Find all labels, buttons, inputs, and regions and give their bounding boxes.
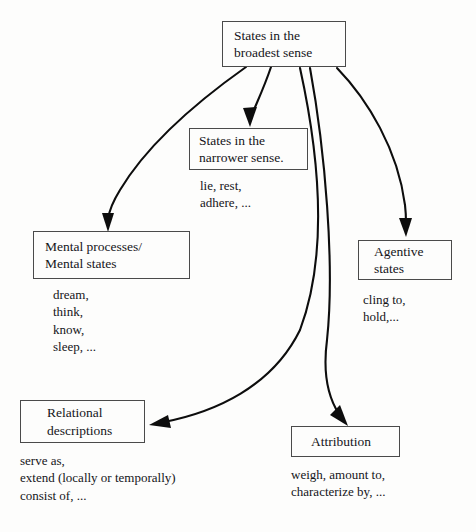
node-label: Agentive states — [374, 243, 451, 278]
node-label: Attribution — [311, 433, 399, 450]
diagram-canvas: States in the broadest sense States in t… — [0, 0, 476, 532]
node-mental-processes-states[interactable]: Mental processes/ Mental states — [33, 231, 190, 279]
node-label: Relational descriptions — [47, 404, 144, 439]
node-states-broadest-sense[interactable]: States in the broadest sense — [222, 21, 346, 67]
node-agentive-states[interactable]: Agentive states — [358, 240, 452, 280]
node-states-narrower-sense[interactable]: States in the narrower sense. — [189, 128, 308, 170]
node-relational-descriptions[interactable]: Relational descriptions — [20, 400, 145, 443]
edge-root-to-attribution — [310, 68, 348, 426]
node-label: States in the narrower sense. — [199, 132, 307, 167]
examples-relational: serve as, extend (locally or temporally)… — [20, 452, 176, 504]
node-label: Mental processes/ Mental states — [45, 238, 189, 273]
node-label: States in the broadest sense — [234, 27, 345, 62]
edge-root-to-narrower — [243, 67, 271, 127]
node-attribution[interactable]: Attribution — [291, 426, 400, 457]
examples-attribution: weigh, amount to, characterize by, ... — [291, 466, 385, 501]
edge-root-to-agentive — [337, 68, 412, 237]
examples-mental: dream, think, know, sleep, ... — [53, 286, 96, 355]
examples-agentive: cling to, hold,... — [363, 291, 406, 326]
examples-narrower-sense: lie, rest, adhere, ... — [200, 177, 251, 212]
